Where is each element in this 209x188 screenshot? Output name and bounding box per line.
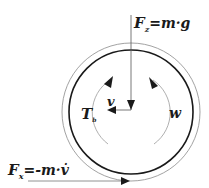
brake-torque-arc — [92, 80, 110, 144]
angular-velocity-label: w — [169, 105, 182, 121]
brake-torque-label: Tb — [81, 105, 96, 123]
fz-arrowhead-icon — [127, 100, 135, 110]
fz-label: Fz=m·g — [133, 14, 191, 34]
fx-label: Fx=-m·v̇ — [7, 161, 70, 181]
fx-arrowhead-icon — [121, 177, 130, 185]
wheel-free-body-diagram: Fz=m·g v Tb w Fx=-m·v̇ — [0, 0, 209, 188]
velocity-label: v — [107, 94, 115, 109]
angular-velocity-arc — [153, 80, 170, 144]
brake-torque-arrowhead-icon — [104, 76, 113, 88]
